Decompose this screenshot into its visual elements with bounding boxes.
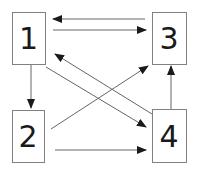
node-1: 1 bbox=[13, 13, 46, 65]
node-label: 2 bbox=[18, 119, 37, 154]
node-2: 2 bbox=[13, 111, 45, 163]
edges-group bbox=[31, 19, 171, 150]
node-label: 1 bbox=[19, 21, 38, 56]
edge-1-to-4 bbox=[46, 67, 146, 127]
graph-svg: 1234 bbox=[0, 0, 197, 172]
node-label: 3 bbox=[159, 21, 178, 56]
nodes-group: 1234 bbox=[13, 13, 187, 163]
diagram-canvas: 1234 bbox=[0, 0, 197, 172]
node-label: 4 bbox=[159, 119, 178, 154]
node-3: 3 bbox=[153, 13, 187, 65]
edge-4-to-1 bbox=[55, 54, 152, 114]
node-4: 4 bbox=[153, 110, 187, 163]
